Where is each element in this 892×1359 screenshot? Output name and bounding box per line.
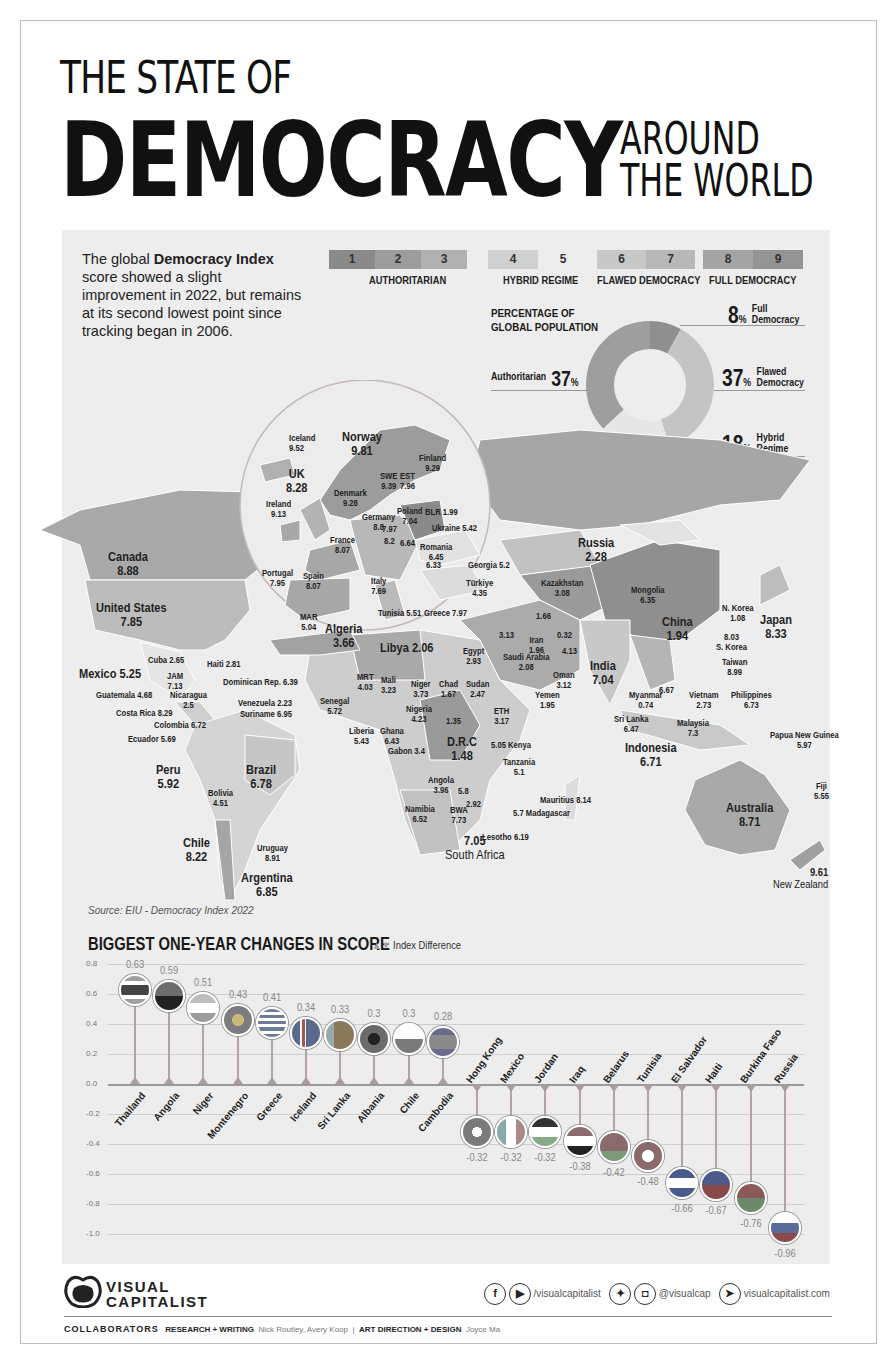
social-handle-twitter[interactable]: @visualcap xyxy=(659,1288,711,1299)
label-argentina: Argentina6.85 xyxy=(241,871,293,899)
label-philippines: Philippines6.73 xyxy=(731,690,772,710)
y-tick-label: 0.6 xyxy=(86,989,104,998)
value-label: -0.32 xyxy=(528,1151,562,1163)
social-handle-facebook[interactable]: /visualcapitalist xyxy=(534,1288,601,1299)
website-link[interactable]: visualcapitalist.com xyxy=(744,1288,830,1299)
triangle-down-icon xyxy=(677,1085,687,1092)
up-down-triangles-icon: ▲▼ xyxy=(372,939,391,951)
label-saudi-arabia: Saudi Arabia2.08 xyxy=(503,652,549,672)
gridline xyxy=(108,1024,804,1025)
label-lesotho: Lesotho 6.19 xyxy=(482,832,529,842)
triangle-up-icon xyxy=(267,1077,277,1084)
youtube-icon[interactable]: ▶ xyxy=(509,1283,531,1305)
value-label: -0.38 xyxy=(563,1160,597,1172)
label-suriname: Suriname 6.95 xyxy=(240,709,292,719)
label-papua-new-guinea: Papua New Guinea5.97 xyxy=(770,730,839,750)
label-nigeria: Nigeria4.23 xyxy=(406,704,432,724)
label-austria: 8.2 xyxy=(384,536,395,546)
flag-icon-cambodia xyxy=(427,1026,459,1058)
label-drc: D.R.C1.48 xyxy=(447,735,477,763)
label-niger: Niger3.73 xyxy=(411,679,431,699)
triangle-up-icon xyxy=(198,1077,208,1084)
callout-line xyxy=(680,325,805,326)
label-romania: Romania6.45 xyxy=(420,542,452,562)
source-note: Source: EIU - Democracy Index 2022 xyxy=(88,905,254,916)
label-indonesia: Indonesia6.71 xyxy=(625,741,677,769)
y-tick-label: 0.4 xyxy=(86,1019,104,1028)
value-label: 0.51 xyxy=(186,976,220,988)
value-label: -0.32 xyxy=(460,1151,494,1163)
label-new-zealand: 9.61New Zealand xyxy=(773,866,828,890)
label-botswana: BWA7.73 xyxy=(450,805,468,825)
label-uruguay: Uruguay8.91 xyxy=(257,843,288,863)
flag-icon-greece xyxy=(256,1007,288,1039)
label-malaysia: Malaysia7.3 xyxy=(677,718,709,738)
flag-icon-burkina-faso xyxy=(735,1182,767,1214)
label-ukraine: Ukraine 5.42 xyxy=(432,523,477,533)
label-chile: Chile8.22 xyxy=(183,836,210,864)
cursor-icon[interactable]: ➤ xyxy=(719,1283,741,1305)
collaborators-line: COLLABORATORS RESEARCH + WRITING Nick Ro… xyxy=(64,1324,500,1334)
label-vietnam: Vietnam2.73 xyxy=(689,690,719,710)
label-mauritania: MRT4.03 xyxy=(357,672,374,692)
title-main: DEMOCRACY xyxy=(60,108,621,212)
label-turkmenistan: 1.66 xyxy=(536,611,551,621)
facebook-icon[interactable]: f xyxy=(484,1283,506,1305)
label-jamaica: JAM7.13 xyxy=(167,671,183,691)
gridline xyxy=(108,1084,804,1086)
label-iceland: Iceland9.52 xyxy=(289,433,315,453)
label-gabon: Gabon 3.4 xyxy=(388,746,425,756)
label-mexico: Mexico 5.25 xyxy=(79,667,141,681)
label-ethiopia: ETH3.17 xyxy=(494,706,509,726)
label-afghanistan: 0.32 xyxy=(557,630,572,640)
label-denmark: Denmark9.28 xyxy=(334,488,367,508)
label-czechia: 7.97 xyxy=(382,524,397,534)
flag-icon-mexico xyxy=(495,1116,527,1148)
label-canada: Canada8.88 xyxy=(108,550,148,578)
triangle-down-icon xyxy=(506,1085,516,1092)
scale-cell-5: 5 xyxy=(538,250,588,269)
triangle-up-icon xyxy=(301,1077,311,1084)
pct-full-democracy: 8% FullDemocracy xyxy=(728,303,799,327)
flag-icon-hong-kong xyxy=(461,1116,493,1148)
triangle-down-icon xyxy=(780,1085,790,1092)
label-brazil: Brazil6.78 xyxy=(246,763,276,791)
value-label: -0.67 xyxy=(699,1204,733,1216)
flag-icon-belarus xyxy=(598,1131,630,1163)
flag-icon-iraq xyxy=(564,1125,596,1157)
label-namibia: Namibia6.52 xyxy=(405,804,435,824)
label-france: France8.07 xyxy=(330,535,355,555)
scale-cell-8: 8 xyxy=(703,250,753,269)
label-thailand: 6.67 xyxy=(659,685,674,695)
scale-full: 8 9 xyxy=(703,250,803,269)
twitter-icon[interactable]: ✦ xyxy=(609,1283,631,1305)
lollipop-stem xyxy=(784,1084,786,1228)
instagram-icon[interactable]: ◘ xyxy=(634,1283,656,1305)
label-dominican-rep: Dominican Rep. 6.39 xyxy=(223,677,298,687)
flag-icon-iceland xyxy=(290,1017,322,1049)
value-label: -0.96 xyxy=(768,1247,802,1259)
flag-icon-thailand xyxy=(119,974,151,1006)
triangle-down-icon xyxy=(472,1085,482,1092)
label-sweden: SWE9.39 xyxy=(380,471,397,491)
label-costa-rica: Costa Rica 8.29 xyxy=(116,708,173,718)
label-mongolia: Mongolia6.35 xyxy=(631,585,665,605)
brand-name: VISUALCAPITALIST xyxy=(106,1279,208,1309)
label-north-korea: N. Korea1.08 xyxy=(722,603,753,623)
scale-hybrid: 4 5 xyxy=(488,250,588,269)
label-venezuela: Venezuela 2.23 xyxy=(238,698,292,708)
label-poland: Poland7.04 xyxy=(397,506,423,526)
triangle-down-icon xyxy=(746,1085,756,1092)
y-tick-label: 0.0 xyxy=(86,1079,104,1088)
scale-label-authoritarian: AUTHORITARIAN xyxy=(369,274,446,286)
value-label: -0.66 xyxy=(665,1202,699,1214)
map-russia xyxy=(470,430,810,530)
scale-authoritarian: 1 2 3 xyxy=(329,250,467,269)
gridline xyxy=(108,1174,804,1175)
flag-icon-chile xyxy=(393,1023,425,1055)
label-peru: Peru5.92 xyxy=(156,763,181,791)
y-tick-label: 0.2 xyxy=(86,1049,104,1058)
label-portugal: Portugal7.95 xyxy=(262,568,293,588)
label-uk: UK8.28 xyxy=(286,467,308,495)
label-spain: Spain8.07 xyxy=(303,571,324,591)
